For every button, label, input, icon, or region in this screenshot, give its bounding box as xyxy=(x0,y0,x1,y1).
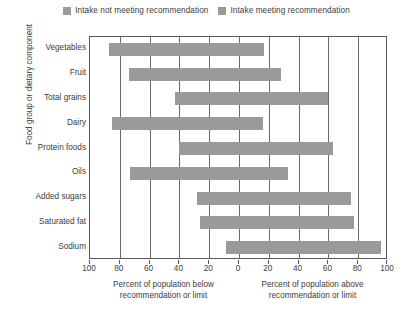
x-caption-right: Percent of population above recommendati… xyxy=(238,280,387,301)
chart-bar xyxy=(200,216,353,229)
gridline xyxy=(120,37,121,258)
legend-label-meeting: Intake meeting recommendation xyxy=(230,6,349,15)
x-caption-left-line2: recommendation or limit xyxy=(89,291,238,302)
x-tick-label: 0 xyxy=(236,264,241,273)
x-tick-label: 20 xyxy=(204,264,213,273)
chart-bar xyxy=(175,92,328,105)
x-caption-right-line2: recommendation or limit xyxy=(238,291,387,302)
chart-bar xyxy=(109,43,264,56)
legend-entry-not-meeting: Intake not meeting recommendation xyxy=(63,6,208,15)
category-label: Sodium xyxy=(10,242,86,252)
x-tick-label: 100 xyxy=(82,264,96,273)
x-caption-left-line1: Percent of population below xyxy=(89,280,238,291)
chart-bar xyxy=(112,117,262,130)
x-tick-label: 20 xyxy=(263,264,272,273)
x-tick-label: 100 xyxy=(380,264,394,273)
category-label: Vegetables xyxy=(10,43,86,53)
x-tick-label: 80 xyxy=(114,264,123,273)
category-label: Dairy xyxy=(10,118,86,128)
x-tick-label: 60 xyxy=(323,264,332,273)
chart-bar xyxy=(226,241,381,254)
x-tick-label: 80 xyxy=(353,264,362,273)
chart-bar xyxy=(197,192,350,205)
legend-entry-meeting: Intake meeting recommendation xyxy=(218,6,349,15)
gridline xyxy=(358,37,359,258)
legend-label-not-meeting: Intake not meeting recommendation xyxy=(75,6,208,15)
chart-bar xyxy=(179,142,332,155)
category-label: Oils xyxy=(10,167,86,177)
x-tick-label: 60 xyxy=(144,264,153,273)
category-label: Added sugars xyxy=(10,192,86,202)
x-tick-label: 40 xyxy=(174,264,183,273)
category-label: Total grains xyxy=(10,93,86,103)
x-axis-ticks: 10080604020020406080100 xyxy=(89,260,387,274)
category-label: Protein foods xyxy=(10,143,86,153)
category-label: Saturated fat xyxy=(10,217,86,227)
legend-swatch-icon xyxy=(218,7,226,15)
x-axis-captions: Percent of population below recommendati… xyxy=(89,280,387,301)
x-caption-left: Percent of population below recommendati… xyxy=(89,280,238,301)
plot-area xyxy=(89,36,387,259)
category-label-list: VegetablesFruitTotal grainsDairyProtein … xyxy=(10,36,86,259)
chart-legend: Intake not meeting recommendation Intake… xyxy=(0,6,413,15)
chart-bar xyxy=(130,167,288,180)
legend-swatch-icon xyxy=(63,7,71,15)
x-caption-right-line1: Percent of population above xyxy=(238,280,387,291)
chart-bar xyxy=(129,68,281,81)
chart-container: Intake not meeting recommendation Intake… xyxy=(0,0,413,314)
category-label: Fruit xyxy=(10,68,86,78)
x-tick-label: 40 xyxy=(293,264,302,273)
